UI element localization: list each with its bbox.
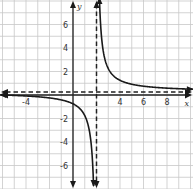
y-tick-label: -6 <box>60 162 68 171</box>
y-tick-label: -4 <box>60 138 68 147</box>
y-axis-down-arrow-icon <box>70 181 76 188</box>
x-tick-label: -4 <box>22 98 30 107</box>
x-tick-label: 4 <box>117 98 122 107</box>
y-tick-label: -2 <box>60 115 68 124</box>
rational-function-graph: -4468642-2-4-6xy <box>0 0 193 189</box>
tick-labels: -4468642-2-4-6xy <box>22 2 189 171</box>
y-tick-label: 6 <box>63 21 68 30</box>
x-tick-label: 6 <box>141 98 146 107</box>
x-tick-label: 8 <box>164 98 169 107</box>
y-axis-up-arrow-icon <box>70 1 76 8</box>
y-tick-label: 2 <box>63 68 68 77</box>
x-axis-label: x <box>184 99 189 108</box>
y-tick-label: 4 <box>63 44 68 53</box>
y-axis-label: y <box>76 2 82 11</box>
